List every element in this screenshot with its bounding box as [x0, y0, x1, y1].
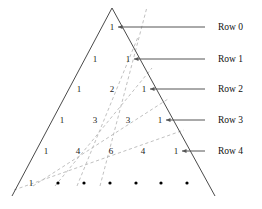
- ellipsis-dot-1: [82, 181, 85, 184]
- coefficient-r4-c3: 4: [141, 146, 146, 156]
- ellipsis-dot-3: [134, 181, 137, 184]
- row-arrowhead-2: [150, 87, 155, 91]
- fib-diagonal-3-dashed-line: [55, 68, 152, 186]
- coefficient-r3-c2: 3: [126, 115, 131, 125]
- coefficient-r2-c0: 1: [77, 84, 82, 94]
- coefficient-r1-c0: 1: [93, 54, 98, 64]
- coefficient-r1-c1: 1: [126, 54, 131, 64]
- row-label-1: Row 1: [218, 54, 243, 64]
- row-label-3: Row 3: [218, 115, 243, 125]
- ellipsis-dots-group: [56, 181, 188, 184]
- coefficient-r4-c1: 4: [76, 146, 81, 156]
- coefficient-r4-c2: 6: [109, 146, 114, 156]
- ellipsis-dot-5: [185, 181, 188, 184]
- row-label-2: Row 2: [218, 84, 243, 94]
- coefficient-r0-c0: 1: [110, 22, 115, 32]
- row-label-4: Row 4: [218, 146, 243, 156]
- row-arrowhead-3: [166, 118, 171, 122]
- coefficient-r4-c0: 1: [44, 146, 49, 156]
- coefficient-r3-c0: 1: [60, 115, 65, 125]
- coefficient-r2-c2: 1: [142, 84, 147, 94]
- row-label-0: Row 0: [218, 22, 243, 32]
- fib-diagonal-5-dashed-line: [14, 130, 184, 190]
- ellipsis-dot-0: [56, 181, 59, 184]
- row-leader-lines-group: [118, 25, 205, 153]
- row-arrowhead-4: [182, 149, 187, 153]
- coefficient-r5-c0: 1: [29, 178, 34, 188]
- fib-diagonal-1-dashed-line: [100, 7, 147, 186]
- triangle-left-leg: [12, 8, 112, 196]
- triangle-outline-group: [12, 8, 215, 196]
- row-arrowhead-1: [134, 57, 139, 61]
- coefficient-r3-c3: 1: [158, 115, 163, 125]
- ellipsis-dot-2: [108, 181, 111, 184]
- row-arrowhead-0: [118, 25, 123, 29]
- coefficient-r2-c1: 2: [110, 84, 115, 94]
- triangle-right-leg: [112, 8, 215, 196]
- figure-canvas: 1111211331146411 Row 0Row 1Row 2Row 3Row…: [0, 0, 262, 209]
- coefficient-r4-c4: 1: [174, 146, 179, 156]
- pascals-triangle-figure: 1111211331146411 Row 0Row 1Row 2Row 3Row…: [0, 0, 262, 209]
- binomial-coefficients-group: 1111211331146411: [29, 22, 179, 188]
- ellipsis-dot-4: [159, 181, 162, 184]
- coefficient-r3-c1: 3: [93, 115, 98, 125]
- fibonacci-diagonals-group: [14, 7, 184, 190]
- row-labels-group: Row 0Row 1Row 2Row 3Row 4: [218, 22, 243, 156]
